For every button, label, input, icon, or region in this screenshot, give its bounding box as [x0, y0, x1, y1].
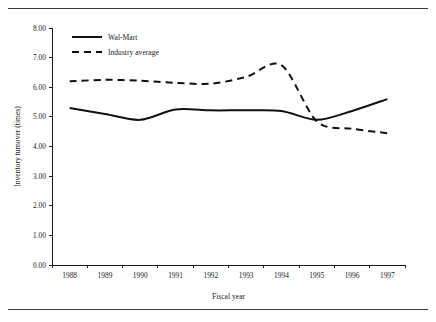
y-tick-label: 4.00: [33, 142, 46, 151]
x-tick-label: 1991: [168, 271, 183, 280]
x-tick-label: 1993: [239, 271, 254, 280]
legend: Wal-Mart Industry average: [72, 33, 159, 57]
legend-label-industry-average: Industry average: [108, 48, 159, 57]
top-horizontal-rule: [8, 8, 428, 9]
series-line-industry-average: [70, 63, 388, 133]
y-tick-label: 1.00: [33, 231, 46, 240]
y-axis-tick-labels: 0.001.002.003.004.005.006.007.008.00: [33, 24, 46, 270]
x-tick-label: 1996: [345, 271, 360, 280]
x-axis-tick-labels: 1988198919901991199219931994199519961997: [62, 271, 395, 280]
bottom-horizontal-rule: [8, 309, 428, 310]
x-tick-label: 1992: [203, 271, 218, 280]
y-tick-label: 0.00: [33, 261, 46, 270]
line-chart: 0.001.002.003.004.005.006.007.008.00 198…: [0, 12, 436, 306]
legend-label-wal-mart: Wal-Mart: [108, 33, 138, 42]
x-tick-label: 1990: [133, 271, 148, 280]
series-line-wal-mart: [70, 99, 388, 120]
y-tick-label: 3.00: [33, 172, 46, 181]
x-axis-title: Fiscal year: [212, 292, 246, 301]
y-tick-label: 7.00: [33, 53, 46, 62]
y-tick-label: 5.00: [33, 112, 46, 121]
x-tick-label: 1995: [309, 271, 324, 280]
y-tick-label: 6.00: [33, 83, 46, 92]
x-tick-label: 1997: [380, 271, 395, 280]
x-tick-label: 1994: [274, 271, 289, 280]
x-tick-label: 1989: [98, 271, 113, 280]
figure-container: 0.001.002.003.004.005.006.007.008.00 198…: [0, 0, 436, 322]
x-tick-label: 1988: [62, 271, 77, 280]
y-axis-title: Inventory turnover (times): [13, 106, 22, 187]
y-tick-label: 8.00: [33, 24, 46, 33]
y-tick-label: 2.00: [33, 201, 46, 210]
